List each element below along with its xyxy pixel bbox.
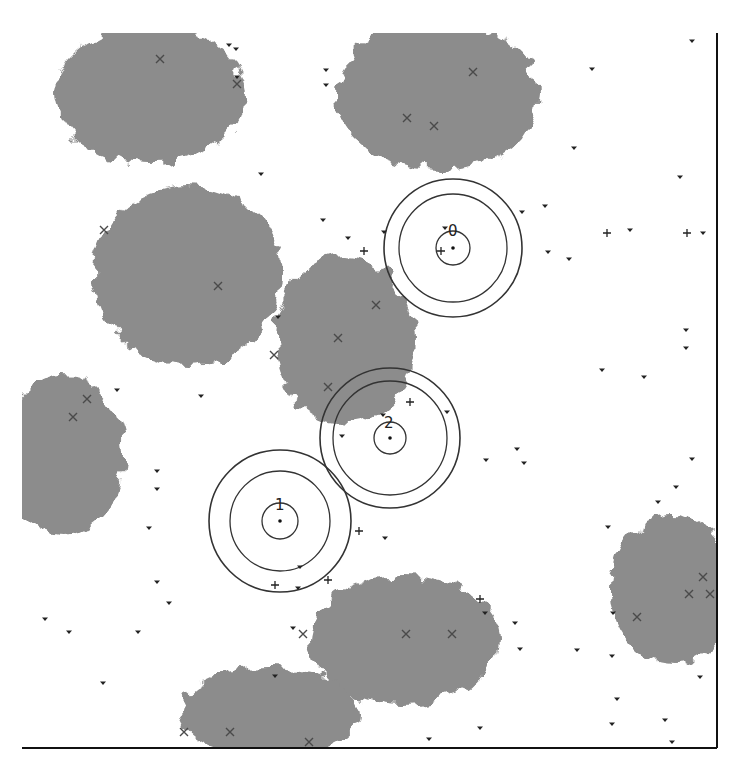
triangle-marker bbox=[154, 581, 160, 585]
triangle-marker bbox=[226, 44, 232, 48]
triangle-marker bbox=[323, 84, 329, 88]
region-top-middle bbox=[338, 20, 538, 170]
triangle-marker bbox=[146, 527, 152, 531]
triangle-marker bbox=[542, 205, 548, 209]
triangle-marker bbox=[135, 631, 141, 635]
region-top-left bbox=[55, 25, 245, 165]
triangle-marker bbox=[566, 258, 572, 262]
triangle-marker bbox=[258, 173, 264, 177]
triangle-marker bbox=[683, 329, 689, 333]
triangle-marker bbox=[669, 741, 675, 745]
plus-marker bbox=[360, 247, 368, 255]
triangle-marker bbox=[673, 486, 679, 490]
triangle-marker bbox=[114, 389, 120, 393]
triangle-marker bbox=[655, 501, 661, 505]
triangle-marker bbox=[599, 369, 605, 373]
agent-0[interactable]: 0 bbox=[384, 179, 522, 317]
triangle-marker bbox=[517, 648, 523, 652]
plus-marker bbox=[271, 581, 279, 589]
region-bottom-left bbox=[180, 667, 360, 757]
plus-marker bbox=[437, 247, 445, 255]
triangle-marker bbox=[641, 376, 647, 380]
triangle-marker bbox=[154, 488, 160, 492]
triangle-marker bbox=[627, 229, 633, 233]
triangle-marker bbox=[444, 411, 450, 415]
triangle-marker bbox=[605, 526, 611, 530]
agent-1[interactable]: 1 bbox=[209, 450, 351, 592]
triangle-marker bbox=[662, 719, 668, 723]
plus-marker bbox=[324, 576, 332, 584]
triangle-marker bbox=[689, 40, 695, 44]
triangle-marker bbox=[689, 458, 695, 462]
triangle-marker bbox=[426, 738, 432, 742]
triangle-marker bbox=[154, 470, 160, 474]
plus-marker bbox=[683, 229, 691, 237]
region-left-middle bbox=[93, 185, 283, 365]
agent-label: 0 bbox=[448, 222, 458, 240]
triangle-marker bbox=[609, 723, 615, 727]
triangle-marker bbox=[42, 618, 48, 622]
region-left-edge bbox=[0, 375, 124, 535]
triangle-marker bbox=[514, 448, 520, 452]
triangle-marker bbox=[290, 627, 296, 631]
triangle-marker bbox=[233, 48, 239, 52]
occupied-regions bbox=[0, 20, 734, 757]
triangle-marker bbox=[545, 251, 551, 255]
agent-label: 2 bbox=[384, 414, 394, 432]
triangle-marker bbox=[320, 219, 326, 223]
triangle-marker bbox=[166, 602, 172, 606]
triangle-marker bbox=[700, 232, 706, 236]
triangle-marker bbox=[198, 395, 204, 399]
region-center bbox=[275, 255, 415, 425]
triangle-marker bbox=[609, 655, 615, 659]
triangle-marker bbox=[589, 68, 595, 72]
agent-center-dot bbox=[388, 436, 392, 440]
region-right bbox=[610, 515, 734, 665]
triangle-marker bbox=[574, 649, 580, 653]
triangle-marker bbox=[677, 176, 683, 180]
x-marker bbox=[299, 630, 307, 638]
triangle-marker bbox=[382, 537, 388, 541]
triangle-marker bbox=[477, 727, 483, 731]
x-marker bbox=[180, 728, 188, 736]
triangle-marker bbox=[100, 682, 106, 686]
triangle-marker bbox=[66, 631, 72, 635]
triangle-marker bbox=[697, 676, 703, 680]
agent-center-dot bbox=[451, 246, 455, 250]
triangle-marker bbox=[519, 211, 525, 215]
triangle-marker bbox=[571, 147, 577, 151]
plus-marker bbox=[355, 527, 363, 535]
triangle-marker bbox=[483, 459, 489, 463]
triangle-marker bbox=[345, 237, 351, 241]
agent-label: 1 bbox=[275, 496, 285, 514]
plus-marker bbox=[406, 398, 414, 406]
triangle-marker bbox=[339, 435, 345, 439]
agent-center-dot bbox=[278, 519, 282, 523]
triangle-marker bbox=[521, 462, 527, 466]
triangle-marker bbox=[614, 698, 620, 702]
plus-marker bbox=[603, 229, 611, 237]
simulation-world: 021 bbox=[0, 0, 738, 772]
triangle-marker bbox=[512, 622, 518, 626]
triangle-marker bbox=[323, 69, 329, 73]
triangle-marker bbox=[683, 347, 689, 351]
